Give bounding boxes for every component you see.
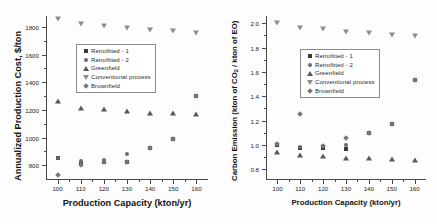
y-tick-minor — [44, 151, 46, 152]
y-tick — [42, 27, 46, 28]
x-tick — [392, 180, 393, 184]
x-tick-minor — [357, 180, 358, 182]
circle-marker-icon — [80, 58, 91, 62]
legend-item: Greenfield — [304, 69, 375, 78]
y-tick-minor — [264, 133, 266, 134]
legend-item: Retrofitted - 2 — [304, 61, 375, 70]
x-tick-label: 100 — [272, 185, 282, 192]
x-tick — [196, 180, 197, 184]
y-tick — [262, 23, 266, 24]
x-tick-label: 140 — [364, 185, 374, 192]
y-tick-label: 1800 — [25, 24, 39, 31]
y-tick-label: 1400 — [25, 79, 39, 86]
y-axis-title: Carbon Emission (kton of CO2 / kton of E… — [230, 21, 239, 181]
triangle-up-marker-icon — [307, 71, 313, 76]
y-tick-label: 1.4 — [250, 93, 259, 100]
x-tick — [415, 180, 416, 184]
y-tick — [262, 48, 266, 49]
x-tick-minor — [139, 180, 140, 182]
legend-item: Retrofitted - 2 — [80, 56, 151, 65]
y-tick-label: 1600 — [25, 51, 39, 58]
x-tick-label: 100 — [52, 185, 62, 192]
x-tick-minor — [403, 180, 404, 182]
triangle-down-marker-icon — [389, 32, 395, 37]
y-tick-minor — [264, 108, 266, 109]
triangle-up-marker-icon — [147, 110, 153, 115]
triangle-up-marker-icon — [366, 155, 372, 160]
legend-item-label: Conventional process — [315, 79, 375, 85]
triangle-up-marker-icon — [304, 71, 315, 76]
x-tick-minor — [185, 180, 186, 182]
y-tick-label: 1.0 — [250, 141, 259, 148]
circle-marker-icon — [125, 152, 129, 156]
legend-item-label: Retrofitted - 2 — [91, 57, 129, 63]
x-tick-minor — [289, 180, 290, 182]
triangle-up-marker-icon — [80, 66, 91, 71]
y-tick-minor — [264, 35, 266, 36]
legend-item: Retrofitted - 1 — [80, 47, 151, 56]
legend-item-label: Retrofitted - 2 — [315, 62, 353, 68]
legend-item-label: Brownfield — [91, 83, 120, 89]
x-tick-minor — [335, 180, 336, 182]
triangle-up-marker-icon — [170, 111, 176, 116]
triangle-up-marker-icon — [297, 153, 303, 158]
legend-item-label: Greenfield — [315, 70, 344, 76]
x-tick-minor — [69, 180, 70, 182]
triangle-up-marker-icon — [320, 154, 326, 159]
triangle-up-marker-icon — [389, 156, 395, 161]
diamond-marker-icon — [83, 83, 89, 89]
triangle-down-marker-icon — [80, 75, 91, 80]
triangle-down-marker-icon — [412, 34, 418, 39]
x-tick-label: 130 — [122, 185, 132, 192]
triangle-down-marker-icon — [307, 80, 313, 85]
x-tick — [127, 180, 128, 184]
y-tick — [262, 121, 266, 122]
x-tick — [81, 180, 82, 184]
y-tick — [42, 110, 46, 111]
circle-marker-icon — [304, 63, 315, 67]
x-tick-minor — [162, 180, 163, 182]
triangle-down-marker-icon — [55, 17, 61, 22]
circle-marker-icon — [308, 63, 312, 67]
chart-panel-carbon-emission: 0.81.01.21.41.61.82.01001101201301401501… — [218, 0, 437, 224]
y-tick-minor — [264, 60, 266, 61]
triangle-down-marker-icon — [193, 30, 199, 35]
y-tick — [262, 72, 266, 73]
x-tick — [323, 180, 324, 184]
diamond-marker-icon — [78, 162, 84, 168]
triangle-down-marker-icon — [297, 25, 303, 30]
legend-item: Brownfield — [80, 81, 151, 90]
y-tick — [42, 82, 46, 83]
y-axis-line — [266, 16, 267, 179]
x-tick — [173, 180, 174, 184]
x-tick-label: 160 — [409, 185, 419, 192]
legend-item-label: Retrofitted - 1 — [315, 53, 353, 59]
diamond-marker-icon — [297, 111, 303, 117]
x-tick-label: 140 — [145, 185, 155, 192]
x-axis-title: Production Capacity (kton/yr) — [46, 198, 208, 208]
legend-annualized-production-cost: Retrofitted - 1Retrofitted - 2Greenfield… — [76, 44, 156, 93]
triangle-down-marker-icon — [101, 24, 107, 29]
x-tick — [300, 180, 301, 184]
x-tick-minor — [312, 180, 313, 182]
y-tick-label: 1.8 — [250, 44, 259, 51]
chart-panel-production-cost: 8001000120014001600180010011012013014015… — [0, 0, 218, 224]
circle-marker-icon — [56, 156, 60, 160]
triangle-up-marker-icon — [343, 155, 349, 160]
y-tick-label: 1.2 — [250, 117, 259, 124]
x-tick-label: 110 — [76, 185, 86, 192]
x-tick-label: 110 — [295, 185, 305, 192]
x-tick — [277, 180, 278, 184]
x-tick-label: 150 — [387, 185, 397, 192]
legend-item: Retrofitted - 1 — [304, 52, 375, 61]
triangle-down-marker-icon — [343, 29, 349, 34]
legend-item-label: Retrofitted - 1 — [91, 48, 129, 54]
triangle-down-marker-icon — [83, 75, 89, 80]
x-axis-title: Production Capacity (kton/yr) — [266, 198, 426, 207]
triangle-down-marker-icon — [78, 22, 84, 27]
circle-marker-icon — [298, 145, 302, 149]
y-tick-label: 1200 — [25, 106, 39, 113]
y-tick — [262, 169, 266, 170]
diamond-marker-icon — [343, 135, 349, 141]
x-tick-minor — [115, 180, 116, 182]
